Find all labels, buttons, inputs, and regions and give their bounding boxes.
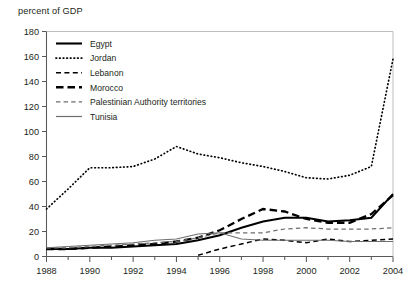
legend-label-tunisia: Tunisia <box>90 112 118 122</box>
x-tick-label: 1988 <box>36 266 56 276</box>
y-tick-label: 40 <box>29 202 39 212</box>
y-tick-label: 120 <box>24 102 39 112</box>
y-tick-label: 140 <box>24 77 39 87</box>
series-line-jordan <box>47 59 394 209</box>
y-tick-label: 60 <box>29 177 39 187</box>
x-tick-label: 2002 <box>339 266 359 276</box>
chart-axes <box>42 32 393 263</box>
legend-label-egypt: Egypt <box>90 39 113 49</box>
x-axis-tick-labels: 198819901992199419961998200020022004 <box>36 266 403 276</box>
legend-label-lebanon: Lebanon <box>90 68 124 78</box>
x-tick-label: 1996 <box>210 266 230 276</box>
y-tick-label: 160 <box>24 52 39 62</box>
legend-label-morocco: Morocco <box>90 83 123 93</box>
legend-label-pat: Palestinian Authority territories <box>90 97 206 107</box>
y-tick-label: 100 <box>24 127 39 137</box>
line-chart-svg: 020406080100120140160180 198819901992199… <box>0 0 413 286</box>
x-tick-label: 1998 <box>253 266 273 276</box>
y-tick-label: 0 <box>34 252 39 262</box>
x-tick-label: 1994 <box>166 266 186 276</box>
x-tick-label: 2000 <box>296 266 316 276</box>
x-tick-label: 1992 <box>123 266 143 276</box>
y-tick-label: 20 <box>29 227 39 237</box>
legend-label-jordan: Jordan <box>90 53 116 63</box>
y-tick-label: 80 <box>29 152 39 162</box>
x-tick-label: 1990 <box>80 266 100 276</box>
x-tick-label: 2004 <box>383 266 403 276</box>
y-tick-label: 180 <box>24 27 39 37</box>
y-axis-tick-labels: 020406080100120140160180 <box>24 27 39 262</box>
chart-legend: EgyptJordanLebanonMoroccoPalestinian Aut… <box>56 39 206 122</box>
chart-container: percent of GDP 020406080100120140160180 … <box>0 0 413 286</box>
